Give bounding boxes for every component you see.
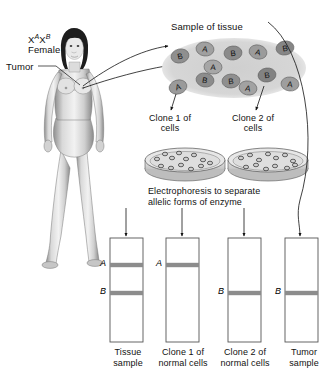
gel-caption-clone-2-normal: Clone 2 of normal cells [213,347,277,368]
tumor-label: Tumor [6,62,34,72]
gel-band-letter-b: B [275,286,281,296]
colony [263,167,268,171]
gel-band-letter-b: B [100,286,106,296]
colony [198,164,203,168]
colony [253,163,258,167]
gel-band-b [110,291,143,295]
sample-of-tissue-label: Sample of tissue [171,22,243,32]
gel-band-a [110,263,143,267]
clone-1-dish [145,148,225,181]
gel-lane-group [110,238,318,342]
clone-2-normal-lane [228,238,261,342]
gel-band-letter-a: A [156,258,162,268]
colony [162,152,167,156]
tissue-sample-lane [110,238,143,342]
genotype-superscript-b: B [46,33,51,40]
figure-canvas: BABABAABBABA XAXB Female Tumor Sample of… [0,0,323,386]
tissue-cell-letter: B [228,77,234,86]
colony [292,163,297,167]
dish-to-gel-arrows [126,208,244,236]
colony [188,167,193,171]
gel-band-b [228,291,261,295]
electrophoresis-label: Electrophoresis to separate allelic form… [148,186,288,207]
colony [178,163,183,167]
colony [247,153,252,157]
colony [191,153,196,157]
clone-2-dish [228,148,308,181]
clone-2-of-cells-label: Clone 2 of cells [222,113,284,133]
colony [183,157,188,161]
genotype-title: XAXB Female [28,22,60,55]
gel-band-letter-a: A [100,258,106,268]
colony [200,158,205,162]
colony [207,161,212,165]
colony [243,165,248,169]
colony [176,151,181,155]
gel-band-a [166,263,199,267]
colony [168,166,173,170]
gel-band-letter-b: B [218,286,224,296]
female-figure-illustration [42,28,104,268]
colony [284,166,289,170]
tissue-cell-letter: B [230,49,236,59]
colony [290,159,295,163]
tumor-sample-lane [285,238,318,342]
colony [272,164,277,168]
colony [154,157,159,161]
genotype-female-word: Female [28,44,60,55]
colony [158,164,163,168]
gel-band-b [285,291,318,295]
colony [265,152,270,156]
clone-1-of-cells-label: Clone 1 of cells [139,113,201,133]
colony [238,156,243,160]
colony [273,156,278,160]
gel-caption-clone-1-normal: Clone 1 of normal cells [151,347,215,368]
gel-caption-tumor-sample: Tumor sample [272,347,323,368]
petri-dish-group [145,148,308,181]
colony [282,153,287,157]
colony [256,158,261,162]
clone-1-normal-lane [166,238,199,342]
colony [169,156,174,160]
